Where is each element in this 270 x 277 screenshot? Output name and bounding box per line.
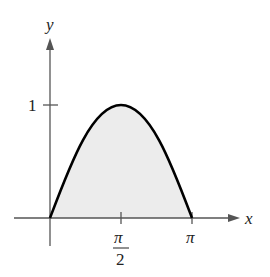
y-axis-label: y [44, 15, 54, 34]
x-axis-label: x [244, 209, 253, 228]
y-tick-label-1: 1 [28, 96, 37, 115]
y-axis-arrow-icon [46, 38, 54, 50]
x-tick-label-pi: π [186, 228, 195, 247]
x-axis-arrow-icon [228, 214, 240, 222]
x-tick-label-pi-half-numerator: π [114, 228, 123, 247]
x-tick-label-pi-half-denominator: 2 [116, 250, 125, 269]
chart: y x 1 π 2 π [0, 0, 270, 277]
